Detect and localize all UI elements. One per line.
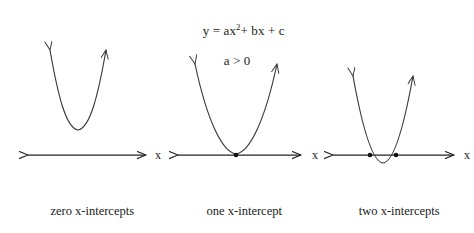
caption-text-1: zero x-intercepts xyxy=(50,204,134,218)
panel-one-intercept xyxy=(178,64,301,157)
caption-one-intercept: one x-intercept b2 – 4ac = 0 xyxy=(160,186,316,233)
panel-zero-intercepts xyxy=(28,50,146,155)
parabola-curve-2 xyxy=(195,64,277,154)
parabola-curve-3 xyxy=(353,76,413,163)
caption-zero-intercepts: zero x-intercepts b2 – 4ac < 0 xyxy=(8,186,164,233)
parabola-curve-1 xyxy=(50,50,106,130)
x-axis-label-3: x xyxy=(464,149,470,161)
caption-text-2: one x-intercept xyxy=(207,204,282,218)
x-intercept-point-3b xyxy=(394,153,399,158)
quadratic-discriminant-figure: y = ax2+ bx + c a > 0 xyxy=(0,0,474,233)
x-intercept-point-2a xyxy=(234,153,239,158)
x-intercept-point-3a xyxy=(368,153,373,158)
x-axis-label-1: x xyxy=(155,149,161,161)
panel-two-intercepts xyxy=(333,76,454,163)
x-axis-label-2: x xyxy=(312,149,318,161)
caption-text-3: two x-intercepts xyxy=(359,204,440,218)
caption-two-intercepts: two x-intercepts b2 – 4ac > 0 xyxy=(315,186,471,233)
